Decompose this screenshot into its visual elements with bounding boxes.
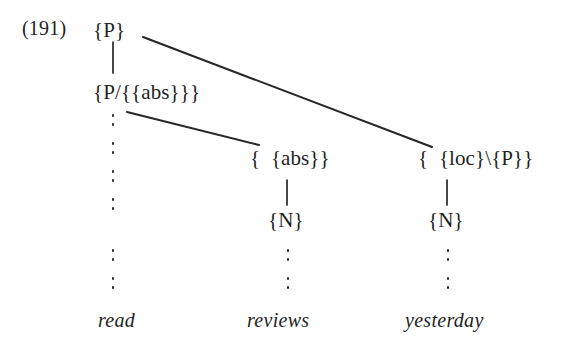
node-root-category: {P}: [93, 20, 125, 41]
terminal-word-yesterday: yesterday: [405, 310, 484, 330]
ellipsis-middle-1: [285, 249, 291, 261]
node-root-child-category: {P/{{abs}}}: [93, 82, 200, 103]
node-middle-noun: {N}: [268, 210, 304, 231]
tree-branch-lines: [0, 0, 582, 355]
terminal-word-reviews: reviews: [247, 310, 309, 330]
node-right-noun: {N}: [428, 210, 464, 231]
node-middle-category: { {abs}}: [250, 148, 330, 169]
ellipsis-middle-2: [285, 277, 291, 289]
syntax-tree-figure: (191) {P} {P/{{abs}}} { {abs}} { {loc}\{…: [0, 0, 582, 355]
node-right-category: { {loc}\{P}}: [418, 148, 533, 169]
example-number: (191): [22, 18, 66, 38]
terminal-word-read: read: [98, 310, 135, 330]
ellipsis-left-3: [110, 170, 116, 182]
branch-root-child-to-middle-category: [127, 112, 259, 145]
ellipsis-left-4: [110, 198, 116, 210]
ellipsis-right-1: [445, 249, 451, 261]
ellipsis-left-5: [110, 249, 116, 261]
ellipsis-right-2: [445, 277, 451, 289]
ellipsis-left-1: [110, 114, 116, 126]
ellipsis-left-6: [110, 277, 116, 289]
ellipsis-left-2: [110, 142, 116, 154]
